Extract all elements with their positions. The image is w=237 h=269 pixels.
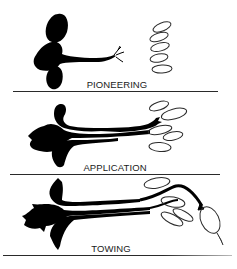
figure: PIONEERING APPLICATION bbox=[0, 0, 237, 269]
panel-towing-drawing bbox=[0, 0, 237, 269]
towing-trailing-filament bbox=[217, 233, 223, 245]
panel-divider-towing bbox=[3, 255, 232, 256]
towing-lead-process bbox=[140, 186, 204, 210]
towing-cell-bodies bbox=[22, 178, 150, 250]
panel-label-towing: TOWING bbox=[91, 244, 130, 254]
